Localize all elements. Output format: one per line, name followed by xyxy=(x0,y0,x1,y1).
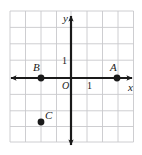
y-axis-label: y xyxy=(63,13,68,24)
coordinate-plane-figure: y x O 1 1 A B C xyxy=(0,0,142,155)
point-a-label: A xyxy=(110,62,117,73)
point-a-marker xyxy=(114,75,121,82)
x-axis-label: x xyxy=(128,82,133,93)
point-c-label: C xyxy=(45,110,52,121)
x-unit-tick-label: 1 xyxy=(87,81,92,91)
point-c-marker xyxy=(38,119,45,126)
y-unit-tick-label: 1 xyxy=(62,56,67,66)
coordinate-plane-svg xyxy=(0,0,142,155)
point-b-marker xyxy=(38,75,45,82)
origin-label: O xyxy=(62,81,69,91)
point-b-label: B xyxy=(33,62,40,73)
